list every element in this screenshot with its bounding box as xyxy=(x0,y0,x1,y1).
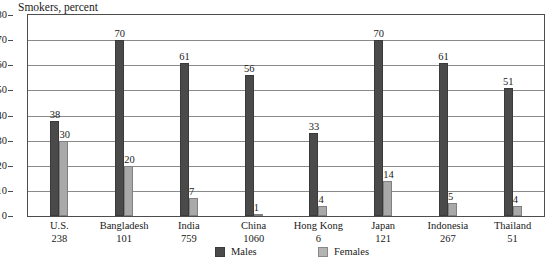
bar-value-label-males: 61 xyxy=(174,51,194,62)
bar-group: 3830 xyxy=(50,14,68,216)
x-axis-category: India759 xyxy=(178,219,200,245)
category-sublabel: 121 xyxy=(371,232,395,245)
bar-males xyxy=(504,88,513,216)
bar-males xyxy=(439,63,448,216)
bar-group: 514 xyxy=(504,14,522,216)
x-axis-category: Japan121 xyxy=(371,219,395,245)
bar-value-label-males: 70 xyxy=(110,28,130,39)
bar-value-label-males: 56 xyxy=(239,63,259,74)
x-axis-category: Thailand51 xyxy=(494,219,531,245)
category-sublabel: 6 xyxy=(294,232,343,245)
bar-value-label-males: 61 xyxy=(433,51,453,62)
category-name: China xyxy=(241,219,266,232)
y-axis-tick-label: 30 xyxy=(0,136,7,146)
y-axis-tick-mark xyxy=(8,166,13,167)
legend-item-males: Males xyxy=(215,246,257,258)
category-sublabel: 1060 xyxy=(241,232,266,245)
bar-group: 617 xyxy=(180,14,198,216)
bar-females xyxy=(383,181,392,216)
bar-group: 615 xyxy=(439,14,457,216)
x-axis-category: Indonesia267 xyxy=(427,219,468,245)
chart-title: Smokers, percent xyxy=(18,1,98,13)
bar-value-label-males: 33 xyxy=(304,121,324,132)
bars-layer: 383070206175613347014615514 xyxy=(27,14,545,217)
bar-females xyxy=(448,203,457,216)
y-axis-tick-label: 50 xyxy=(0,85,7,95)
category-name: India xyxy=(178,219,200,232)
males-swatch-icon xyxy=(215,247,225,257)
females-swatch-icon xyxy=(318,247,328,257)
y-axis-tick-mark xyxy=(8,141,13,142)
x-axis-category: Hong Kong6 xyxy=(294,219,343,245)
category-name: Thailand xyxy=(494,219,531,232)
bar-value-label-males: 70 xyxy=(369,28,389,39)
bar-group: 334 xyxy=(309,14,327,216)
legend-label-females: Females xyxy=(334,246,369,258)
bar-females xyxy=(189,198,198,216)
x-axis-category: Bangladesh101 xyxy=(100,219,149,245)
y-axis-tick-mark xyxy=(8,15,13,16)
bar-group: 7014 xyxy=(374,14,392,216)
bar-males xyxy=(50,121,59,216)
bar-value-label-males: 51 xyxy=(498,76,518,87)
y-axis-tick-label: 40 xyxy=(0,111,7,121)
bar-value-label-females: 4 xyxy=(318,194,323,205)
y-axis-tick-mark xyxy=(8,116,13,117)
bar-females xyxy=(254,214,263,217)
category-name: Japan xyxy=(371,219,395,232)
y-axis-tick-mark xyxy=(8,65,13,66)
category-name: Bangladesh xyxy=(100,219,149,232)
bar-group: 7020 xyxy=(115,14,133,216)
category-name: U.S. xyxy=(50,219,69,232)
bar-males xyxy=(115,40,124,216)
y-axis-tick-label: 80 xyxy=(0,10,7,20)
y-axis-tick-mark xyxy=(8,40,13,41)
category-name: Hong Kong xyxy=(294,219,343,232)
category-sublabel: 101 xyxy=(100,232,149,245)
bar-value-label-females: 30 xyxy=(59,129,70,140)
bar-group: 561 xyxy=(245,14,263,216)
y-axis-tick-mark xyxy=(8,191,13,192)
bar-value-label-females: 4 xyxy=(513,194,518,205)
bar-females xyxy=(124,166,133,216)
bar-males xyxy=(180,63,189,216)
y-axis: 01020304050607080 xyxy=(0,0,27,266)
category-sublabel: 51 xyxy=(494,232,531,245)
bar-value-label-females: 7 xyxy=(189,186,194,197)
bar-females xyxy=(513,206,522,216)
bar-value-label-females: 1 xyxy=(254,202,259,213)
y-axis-tick-label: 70 xyxy=(0,35,7,45)
category-name: Indonesia xyxy=(427,219,468,232)
x-axis-category: China1060 xyxy=(241,219,266,245)
bar-value-label-females: 14 xyxy=(383,169,394,180)
legend-label-males: Males xyxy=(231,246,257,258)
y-axis-tick-mark xyxy=(8,90,13,91)
category-sublabel: 759 xyxy=(178,232,200,245)
bar-value-label-females: 20 xyxy=(124,154,135,165)
legend-item-females: Females xyxy=(318,246,369,258)
smokers-percent-bar-chart: Smokers, percent 01020304050607080 38307… xyxy=(0,0,553,266)
y-axis-tick-label: 60 xyxy=(0,60,7,70)
category-sublabel: 238 xyxy=(50,232,69,245)
bar-males xyxy=(374,40,383,216)
bar-males xyxy=(309,133,318,216)
bar-females xyxy=(318,206,327,216)
bar-males xyxy=(245,75,254,216)
y-axis-tick-mark xyxy=(8,216,13,217)
y-axis-tick-label: 20 xyxy=(0,161,7,171)
bar-value-label-females: 5 xyxy=(448,191,453,202)
chart-legend: Males Females xyxy=(0,246,553,264)
bar-value-label-males: 38 xyxy=(45,109,65,120)
x-axis-category: U.S.238 xyxy=(50,219,69,245)
bar-females xyxy=(59,141,68,216)
y-axis-tick-label: 10 xyxy=(0,186,7,196)
category-sublabel: 267 xyxy=(427,232,468,245)
y-axis-tick-label: 0 xyxy=(2,211,7,221)
